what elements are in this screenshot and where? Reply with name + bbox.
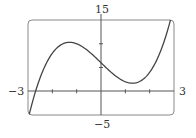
y-max-label: 15 [95,4,109,15]
x-min-label: −3 [8,86,24,97]
y-min-label: −5 [94,119,110,130]
x-max-label: 3 [179,86,186,97]
